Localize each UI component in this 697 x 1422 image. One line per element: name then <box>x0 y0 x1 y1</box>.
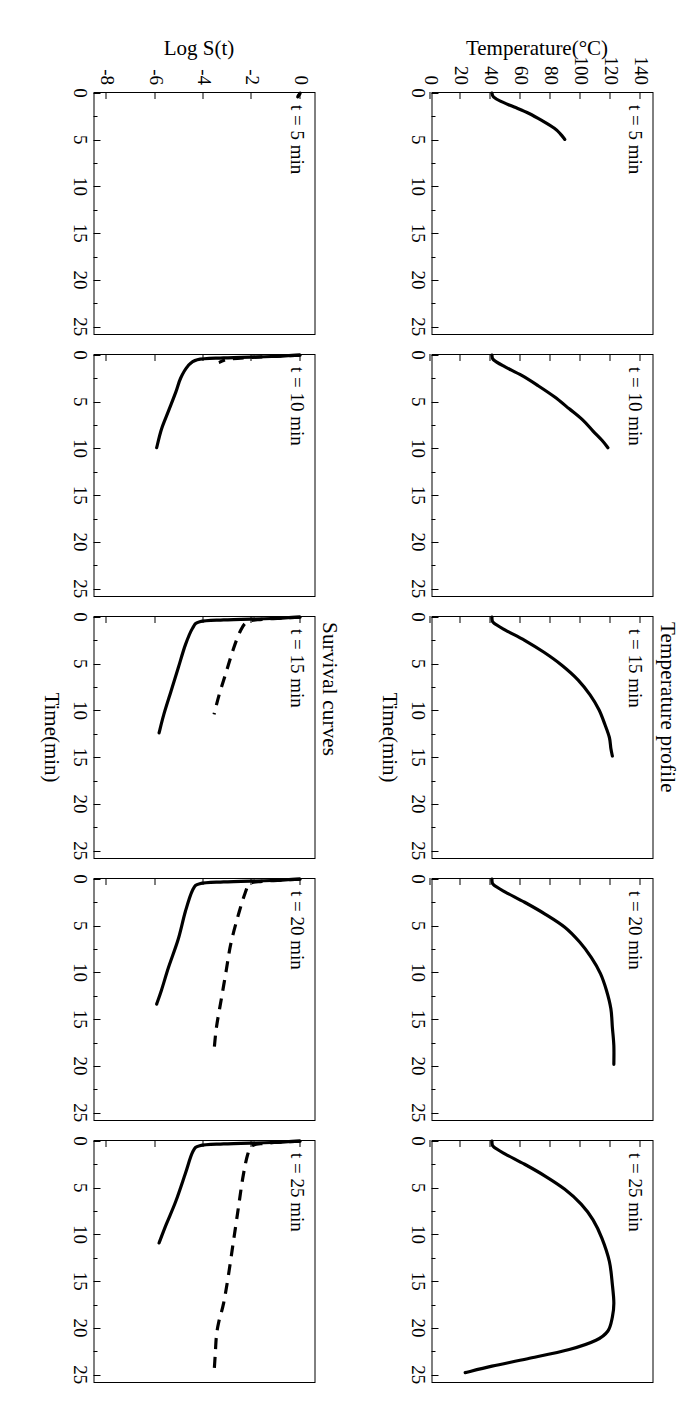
x-tick <box>431 851 438 852</box>
y-tick <box>549 92 550 99</box>
y-tick-label: 40 <box>479 66 501 85</box>
x-tick-label: 5 <box>406 1183 428 1193</box>
x-tick <box>93 402 100 403</box>
x-tick-label: 0 <box>406 88 428 98</box>
x-tick <box>93 186 100 187</box>
x-tick-minor <box>93 1089 97 1090</box>
y-tick <box>639 616 640 623</box>
x-tick-minor <box>431 949 435 950</box>
x-tick <box>431 1281 438 1282</box>
y-tick <box>579 354 580 361</box>
y-tick-labels: 140120100806040200 <box>430 33 652 93</box>
x-tick-label: 10 <box>406 963 428 982</box>
x-tick <box>431 1066 438 1067</box>
x-tick-minor <box>431 996 435 997</box>
x-tick-label: 10 <box>68 963 90 982</box>
plot-area <box>94 617 314 858</box>
y-tick <box>579 878 580 885</box>
curve-solid <box>491 355 607 448</box>
row-title-survival-curves: Survival curves <box>316 622 341 756</box>
x-tick <box>431 280 438 281</box>
x-tick <box>93 757 100 758</box>
y-tick <box>250 616 251 623</box>
x-tick-label: 5 <box>406 659 428 669</box>
panel-survival-2: t = 10 min0510152025 <box>93 354 315 597</box>
x-tick-label: 20 <box>406 1318 428 1337</box>
y-tick <box>489 354 490 361</box>
y-tick <box>459 354 460 361</box>
x-tick <box>431 1141 438 1142</box>
x-tick-labels: 0510152025 <box>64 1141 90 1384</box>
x-tick-minor <box>431 1258 435 1259</box>
x-tick <box>93 1113 100 1114</box>
x-tick-label: 5 <box>68 659 90 669</box>
x-tick-minor <box>431 378 435 379</box>
y-tick <box>549 1140 550 1147</box>
x-tick <box>93 926 100 927</box>
x-tick-label: 5 <box>406 921 428 931</box>
x-tick-minor <box>431 1211 435 1212</box>
x-tick <box>431 1188 438 1189</box>
y-tick <box>549 878 550 885</box>
x-tick <box>431 1113 438 1114</box>
x-tick-minor <box>431 1089 435 1090</box>
x-tick-minor <box>93 425 97 426</box>
y-tick <box>459 1140 460 1147</box>
x-tick-minor <box>93 519 97 520</box>
y-tick <box>250 878 251 885</box>
x-tick-label: 20 <box>68 270 90 289</box>
x-tick-label: 15 <box>406 748 428 767</box>
y-tick <box>250 354 251 361</box>
y-tick <box>579 92 580 99</box>
x-tick-label: 25 <box>68 579 90 598</box>
x-tick <box>93 617 100 618</box>
y-tick <box>609 354 610 361</box>
x-tick-label: 0 <box>68 874 90 884</box>
x-tick-minor <box>93 1305 97 1306</box>
x-tick <box>431 926 438 927</box>
y-tick <box>519 92 520 99</box>
x-tick <box>431 1375 438 1376</box>
x-tick-minor <box>431 519 435 520</box>
x-tick-minor <box>93 378 97 379</box>
x-axis-label-time-temperature: Time(min) <box>376 692 401 782</box>
x-tick <box>431 93 438 94</box>
y-tick <box>202 354 203 361</box>
y-tick <box>105 616 106 623</box>
plot-area <box>94 93 314 334</box>
x-tick <box>93 1375 100 1376</box>
x-tick-label: 10 <box>406 439 428 458</box>
x-tick-label: 20 <box>68 1056 90 1075</box>
y-tick <box>549 616 550 623</box>
y-tick-label: -4 <box>192 69 214 85</box>
y-tick <box>489 878 490 885</box>
y-tick <box>489 1140 490 1147</box>
x-tick-minor <box>431 640 435 641</box>
x-tick-label: 15 <box>68 1272 90 1291</box>
x-tick-minor <box>93 1164 97 1165</box>
curve-dashed <box>214 879 300 1050</box>
y-tick <box>639 1140 640 1147</box>
x-tick <box>93 1234 100 1235</box>
x-tick <box>93 355 100 356</box>
x-tick-label: 5 <box>68 921 90 931</box>
x-tick <box>431 233 438 234</box>
x-tick-minor <box>431 425 435 426</box>
y-tick-label: 0 <box>289 76 311 86</box>
x-tick <box>93 1328 100 1329</box>
x-tick-labels: 0510152025 <box>402 93 428 336</box>
x-tick-minor <box>431 1164 435 1165</box>
y-tick <box>154 354 155 361</box>
x-tick-minor <box>93 827 97 828</box>
x-tick <box>93 140 100 141</box>
x-tick-label: 20 <box>68 794 90 813</box>
x-tick-minor <box>93 565 97 566</box>
y-tick <box>154 92 155 99</box>
x-tick <box>431 1328 438 1329</box>
x-tick-label: 5 <box>406 135 428 145</box>
x-tick <box>431 542 438 543</box>
y-tick <box>519 616 520 623</box>
curve-solid <box>491 879 613 1064</box>
y-tick <box>429 1140 430 1147</box>
x-tick <box>431 972 438 973</box>
